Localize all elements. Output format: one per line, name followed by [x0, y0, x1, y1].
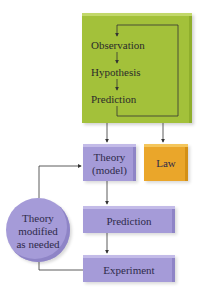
connector-lines	[0, 0, 206, 296]
